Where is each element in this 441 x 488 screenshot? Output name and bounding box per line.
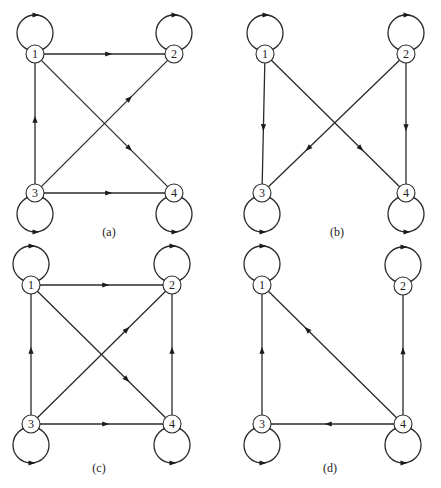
- graph-node-1: 1: [26, 45, 44, 63]
- graph-node-4: 4: [163, 415, 181, 433]
- node-label: 1: [259, 278, 265, 292]
- self-loop-arrow-icon: [260, 243, 267, 248]
- edge-arrow-icon: [403, 124, 408, 131]
- graph-node-1: 1: [22, 276, 40, 294]
- self-loop-arrow-icon: [170, 460, 177, 465]
- edge-4-to-1: [268, 291, 396, 417]
- self-loop-arrow-icon: [260, 229, 267, 234]
- node-label: 2: [171, 47, 177, 61]
- panel-caption: (c): [92, 461, 105, 475]
- graph-node-4: 4: [165, 184, 183, 202]
- edge-arrow-icon: [105, 51, 112, 56]
- graph-node-2: 2: [163, 276, 181, 294]
- graph-panel-a: 1234(a): [17, 12, 192, 239]
- node-label: 2: [400, 279, 406, 293]
- graph-node-1: 1: [253, 276, 271, 294]
- graph-node-2: 2: [165, 45, 183, 63]
- edge-arrow-icon: [400, 347, 405, 354]
- graph-panel-c: 1234(c): [13, 243, 190, 475]
- edge-arrow-icon: [261, 124, 266, 131]
- node-label: 1: [262, 47, 268, 61]
- self-loop-arrow-icon: [33, 229, 40, 234]
- edge-1-to-3: [262, 63, 265, 184]
- graph-node-3: 3: [26, 184, 44, 202]
- node-label: 3: [28, 417, 34, 431]
- self-loop-arrow-icon: [401, 244, 408, 249]
- node-label: 4: [171, 186, 177, 200]
- node-label: 4: [400, 417, 406, 431]
- edge-arrow-icon: [102, 421, 109, 426]
- self-loop-arrow-icon: [401, 460, 408, 465]
- graph-node-3: 3: [253, 184, 271, 202]
- node-label: 2: [169, 278, 175, 292]
- panel-caption: (a): [102, 225, 115, 239]
- graph-node-3: 3: [253, 415, 271, 433]
- self-loop-arrow-icon: [260, 460, 267, 465]
- edge-arrow-icon: [169, 347, 174, 354]
- directed-graph-figure: 1234(a) 1234(b) 1234(c) 1234(d): [0, 0, 441, 488]
- self-loop-arrow-icon: [33, 12, 40, 17]
- node-label: 3: [32, 186, 38, 200]
- node-label: 1: [28, 278, 34, 292]
- graph-node-4: 4: [394, 415, 412, 433]
- node-label: 1: [32, 47, 38, 61]
- graph-panel-b: 1234(b): [244, 12, 424, 239]
- self-loop-arrow-icon: [263, 12, 270, 17]
- graph-node-2: 2: [397, 45, 415, 63]
- node-label: 4: [169, 417, 175, 431]
- self-loop-arrow-icon: [29, 243, 36, 248]
- panel-caption: (d): [323, 461, 337, 475]
- self-loop-arrow-icon: [170, 243, 177, 248]
- self-loop-arrow-icon: [172, 12, 179, 17]
- graph-node-1: 1: [256, 45, 274, 63]
- self-loop-arrow-icon: [29, 460, 36, 465]
- node-label: 4: [403, 186, 409, 200]
- edge-arrow-icon: [259, 347, 264, 354]
- panel-caption: (b): [330, 225, 344, 239]
- node-label: 3: [259, 417, 265, 431]
- edge-arrow-icon: [105, 190, 112, 195]
- graph-node-2: 2: [394, 277, 412, 295]
- self-loop-arrow-icon: [404, 12, 411, 17]
- node-label: 3: [259, 186, 265, 200]
- edge-arrow-icon: [32, 116, 37, 123]
- edge-arrow-icon: [102, 282, 109, 287]
- node-label: 2: [403, 47, 409, 61]
- graph-node-4: 4: [397, 184, 415, 202]
- graph-node-3: 3: [22, 415, 40, 433]
- self-loop-arrow-icon: [172, 229, 179, 234]
- edge-arrow-icon: [28, 347, 33, 354]
- graph-panel-d: 1234(d): [244, 243, 421, 475]
- self-loop-arrow-icon: [404, 229, 411, 234]
- edge-arrow-icon: [325, 421, 332, 426]
